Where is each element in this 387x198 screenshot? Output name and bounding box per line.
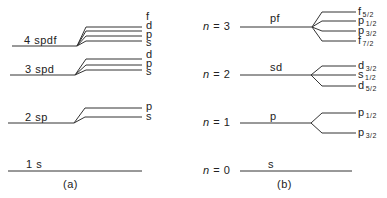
energy-level-diagram: 4 spdf f d p s 3 spd d p s 2 sp p s 1 s … bbox=[0, 0, 387, 198]
orbital-label-p: p bbox=[270, 111, 277, 122]
panel-a-caption: (a) bbox=[63, 179, 78, 190]
orbital-label-s: s bbox=[268, 159, 274, 170]
level-label-2sp: 2 sp bbox=[25, 112, 48, 123]
sublevel-label: s bbox=[146, 111, 152, 122]
sublevel-label: d5/2 bbox=[358, 80, 377, 92]
orbital-label-pf: pf bbox=[270, 13, 280, 24]
level-label-4spdf: 4 spdf bbox=[24, 35, 57, 46]
level-label-3spd: 3 spd bbox=[25, 64, 54, 75]
sublevel-label: f7/2 bbox=[358, 35, 374, 47]
level-label-1s: 1 s bbox=[26, 159, 42, 170]
sublevel-label: s bbox=[146, 37, 152, 48]
n-label-2: n = 2 bbox=[203, 69, 230, 80]
panel-a-lines bbox=[8, 27, 142, 171]
n-label-0: n = 0 bbox=[203, 165, 230, 176]
orbital-label-sd: sd bbox=[270, 62, 283, 73]
panel-b-caption: (b) bbox=[277, 179, 292, 190]
level-lines bbox=[0, 0, 387, 198]
n-label-3: n = 3 bbox=[203, 21, 230, 32]
sublevel-label: p3/2 bbox=[358, 127, 377, 139]
panel-b-lines bbox=[240, 12, 356, 171]
sublevel-label: p1/2 bbox=[358, 107, 377, 119]
sublevel-label: s bbox=[146, 66, 152, 77]
n-label-1: n = 1 bbox=[203, 117, 230, 128]
